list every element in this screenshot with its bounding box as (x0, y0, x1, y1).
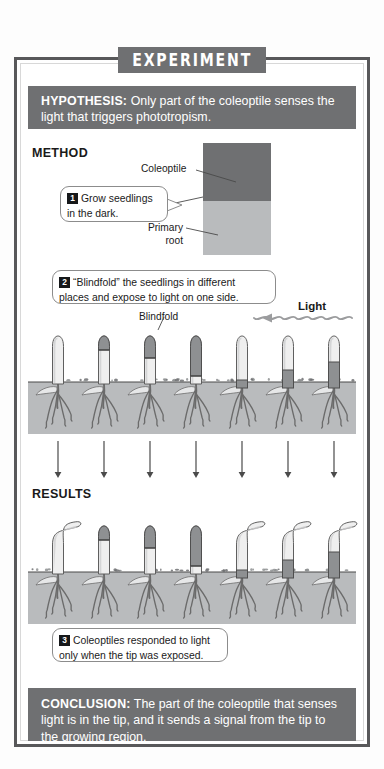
results-section-label: RESULTS (32, 487, 92, 501)
conclusion-label: CONCLUSION: (41, 697, 131, 711)
step-3-number: 3 (59, 635, 70, 646)
primary-root-label-line1: Primary (143, 222, 183, 235)
hypothesis-banner: HYPOTHESIS: Only part of the coleoptile … (28, 86, 356, 129)
step-1-callout: 1Grow seedlings in the dark. (60, 186, 168, 222)
step-3-text: Coleoptiles responded to light only when… (59, 635, 210, 661)
blindfold-label: Blindfold (139, 311, 178, 324)
step-3-callout: 3Coleoptiles responded to light only whe… (52, 628, 228, 662)
step-1-number: 1 (67, 193, 78, 204)
hypothesis-label: HYPOTHESIS: (41, 94, 127, 108)
coleoptile-label: Coleoptile (141, 163, 186, 176)
step-2-number: 2 (59, 277, 70, 288)
dark-growth-panel (203, 143, 271, 255)
experiment-figure: EXPERIMENT HYPOTHESIS: Only part of the … (0, 0, 384, 769)
step-2-callout: 2“Blindfold” the seedlings in different … (52, 270, 276, 304)
light-label: Light (298, 299, 326, 313)
step-2-text: “Blindfold” the seedlings in different p… (59, 277, 239, 303)
conclusion-banner: CONCLUSION: The part of the coleoptile t… (28, 688, 356, 741)
primary-root-label-line2: root (143, 235, 183, 248)
primary-root-label: Primary root (143, 222, 183, 248)
experiment-header-label: EXPERIMENT (132, 50, 252, 70)
dark-panel-soil (203, 201, 271, 255)
experiment-header-banner: EXPERIMENT (118, 47, 266, 73)
method-section-label: METHOD (32, 146, 88, 160)
step-1-text: Grow seedlings in the dark. (67, 193, 153, 219)
